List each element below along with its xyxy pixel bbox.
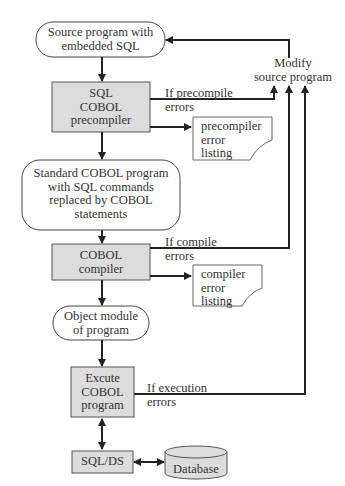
sqlds-label: SQL/DS: [72, 455, 133, 469]
database-label: Database: [165, 463, 227, 477]
source-program-label: Source program with embedded SQL: [36, 26, 165, 53]
precompiler-label: SQL COBOL precompiler: [52, 87, 150, 128]
execute-label: Excute COBOL program: [71, 372, 134, 413]
standard-cobol-label: Standard COBOL program with SQL commands…: [22, 167, 180, 221]
compiler-label: COBOL compiler: [52, 249, 150, 276]
precompiler-listing-label: precompiler error listing: [201, 120, 261, 161]
precompile-errors-label: If precompile errors: [165, 87, 233, 114]
compiler-listing-label: compiler error listing: [201, 268, 245, 309]
execution-errors-label: If execution errors: [147, 382, 207, 409]
compile-errors-label: If compile errors: [165, 236, 217, 263]
modify-source-label: Modify source program: [248, 57, 338, 84]
object-module-label: Object module of program: [53, 310, 149, 337]
